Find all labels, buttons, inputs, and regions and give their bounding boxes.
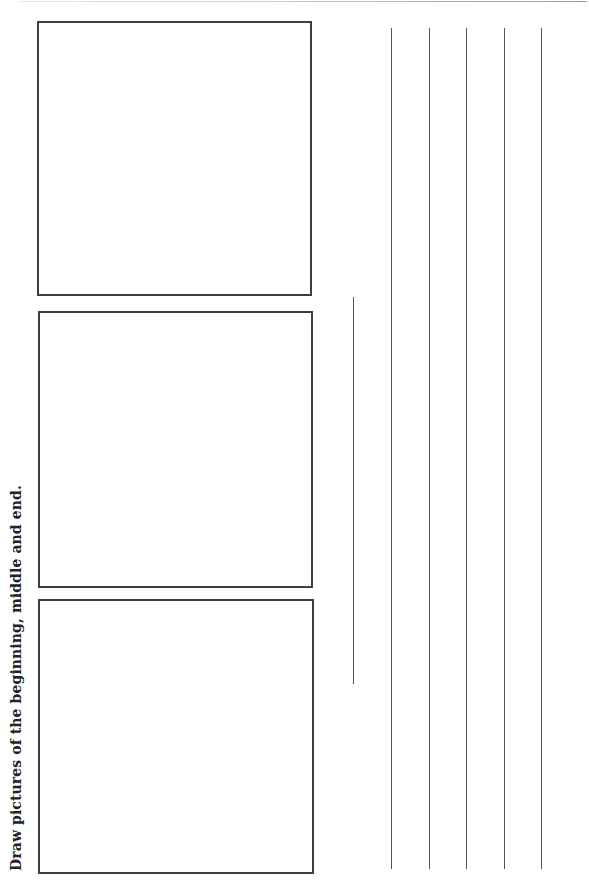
instruction-text: Draw pictures of the beginning, middle a… <box>9 485 23 871</box>
drawing-box-beginning[interactable] <box>38 599 314 874</box>
writing-line-3 <box>466 28 467 869</box>
worksheet-page: Draw pictures of the beginning, middle a… <box>0 0 589 888</box>
writing-line-1 <box>391 28 392 869</box>
top-rule <box>18 1 587 2</box>
writing-line-5 <box>541 28 542 869</box>
drawing-box-end[interactable] <box>37 21 312 296</box>
writing-line-2 <box>429 28 430 869</box>
drawing-box-middle[interactable] <box>38 311 313 588</box>
writing-line-4 <box>504 28 505 869</box>
writing-line-short <box>353 297 354 684</box>
